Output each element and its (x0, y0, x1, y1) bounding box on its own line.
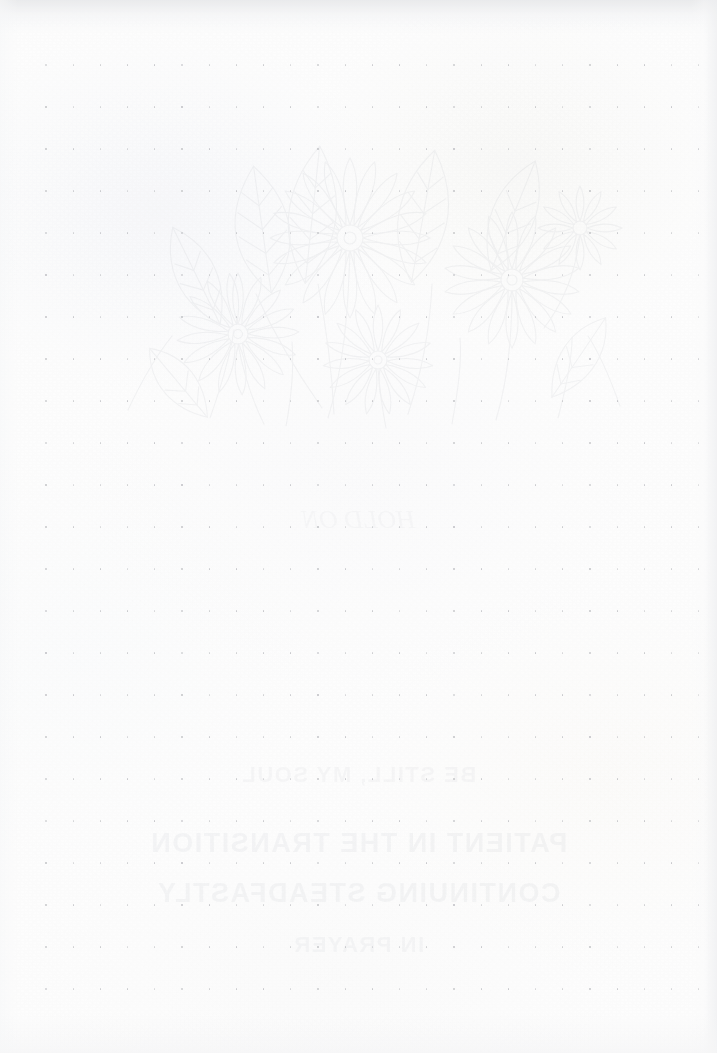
notebook-page: HOLD ON BE STILL, MY SOUL PATIENT IN THE… (0, 0, 717, 1053)
paper-grain-texture (0, 0, 717, 1053)
